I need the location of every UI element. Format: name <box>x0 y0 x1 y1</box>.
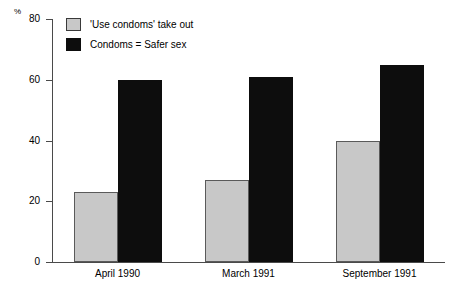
x-axis-category-label: April 1990 <box>58 268 178 279</box>
y-axis-tick <box>46 262 52 263</box>
x-axis-category-label: September 1991 <box>320 268 440 279</box>
legend-swatch-gray <box>66 18 81 31</box>
legend-label: 'Use condoms' take out <box>90 19 193 30</box>
x-axis-category-label: March 1991 <box>189 268 309 279</box>
bar <box>205 180 249 262</box>
x-axis-line <box>52 262 445 263</box>
bar <box>249 77 293 262</box>
legend-item: 'Use condoms' take out <box>66 16 193 33</box>
y-axis-tick-label: 80 <box>4 14 40 24</box>
y-axis-tick-label: 60 <box>4 75 40 85</box>
y-axis-tick-label: 40 <box>4 136 40 146</box>
bar <box>74 192 118 262</box>
legend-swatch-black <box>66 38 81 51</box>
legend-label: Condoms = Safer sex <box>90 39 186 50</box>
y-axis-tick-label: 20 <box>4 196 40 206</box>
bar <box>118 80 162 262</box>
legend-item: Condoms = Safer sex <box>66 36 193 53</box>
y-axis-tick-label: 0 <box>4 257 40 267</box>
chart-legend: 'Use condoms' take out Condoms = Safer s… <box>66 16 193 56</box>
bar <box>380 65 424 262</box>
bar <box>336 141 380 263</box>
bar-chart: % 020406080 April 1990March 1991Septembe… <box>0 0 454 291</box>
